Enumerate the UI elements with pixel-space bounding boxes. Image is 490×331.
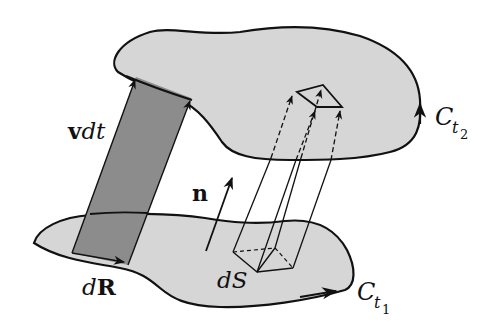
label-normal-n: n <box>192 180 208 206</box>
label-dR: dR <box>82 273 117 300</box>
svg-text:C: C <box>357 278 375 306</box>
diagram-canvas: vdt n dR dS C t 2 C t 1 <box>0 0 490 331</box>
label-v-dt: vdt <box>67 117 106 144</box>
label-C-t2: C t 2 <box>435 103 468 142</box>
svg-text:t: t <box>452 118 459 137</box>
svg-text:C: C <box>435 103 453 131</box>
svg-text:1: 1 <box>382 302 390 317</box>
label-dS: dS <box>217 267 247 293</box>
label-C-t1: C t 1 <box>357 278 390 317</box>
svg-text:2: 2 <box>460 127 468 142</box>
svg-text:t: t <box>374 293 381 312</box>
